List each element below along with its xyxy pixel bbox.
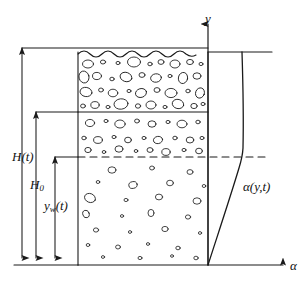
height-initial-label: H0	[30, 178, 44, 193]
height-initial-symbol: H	[30, 177, 39, 192]
alpha-profile-curve	[208, 52, 243, 265]
medium-bubble-zone	[82, 119, 204, 155]
foam-free-surface	[78, 51, 196, 57]
y-axis-label: y	[205, 12, 211, 25]
diagram-canvas	[0, 0, 306, 285]
dimension-height-total	[19, 47, 208, 258]
alpha-axis-label: α	[290, 259, 297, 272]
alpha-curve-label: α(y,t)	[243, 180, 270, 193]
height-wet-label: yw(t)	[44, 199, 68, 214]
foam-column-figure: y α α(y,t) H(t) H0 yw(t)	[0, 0, 306, 285]
height-wet-suffix: (t)	[56, 198, 68, 213]
height-initial-subscript: 0	[39, 183, 43, 193]
height-total-label: H(t)	[12, 150, 34, 163]
dense-bubble-zone	[78, 57, 206, 110]
sparse-bubble-zone	[82, 166, 206, 260]
